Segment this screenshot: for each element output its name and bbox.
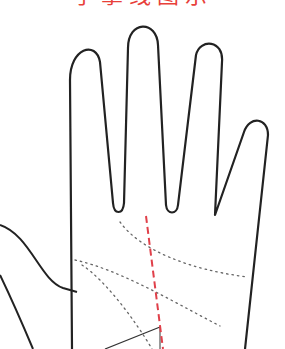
palm-diagram (0, 0, 285, 349)
wrist-line (105, 327, 160, 349)
life-line (82, 265, 152, 349)
heart-line (120, 222, 248, 277)
thumb-inner-outline (0, 275, 33, 349)
head-line (75, 260, 220, 326)
thumb-outline (0, 225, 77, 292)
hand-outline (70, 27, 268, 349)
